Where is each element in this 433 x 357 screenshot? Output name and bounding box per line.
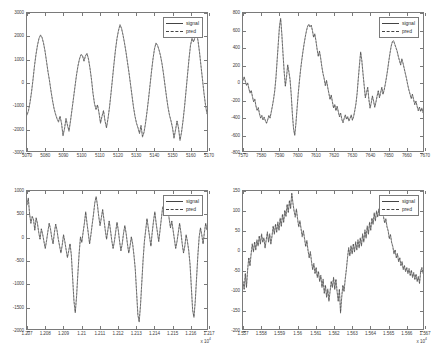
y-tick-label: 600	[233, 28, 240, 33]
y-tick-mark	[27, 106, 30, 107]
y-tick-mark	[420, 231, 423, 232]
legend-line-solid-icon	[382, 23, 399, 25]
x-tick-mark	[370, 326, 371, 329]
legend-top-right: signal pred	[379, 17, 419, 38]
x-tick-mark	[425, 326, 426, 329]
x-tick-label: 5070	[22, 154, 32, 159]
x-tick-label: 7630	[347, 154, 357, 159]
x-tick-mark	[425, 148, 426, 151]
x-tick-label: 5160	[186, 154, 196, 159]
x-tick-label: 1.567	[420, 332, 431, 337]
x-tick-label: 5090	[58, 154, 68, 159]
x-tick-label: 5120	[113, 154, 123, 159]
axes-bottom-left: signal pred 10005000-500-1000-1500-20001…	[26, 190, 208, 330]
x-tick-label: 7620	[329, 154, 339, 159]
y-tick-label: -2000	[13, 127, 24, 132]
x-tick-mark	[100, 13, 101, 16]
x-tick-mark	[191, 13, 192, 16]
y-tick-mark	[204, 284, 207, 285]
x-tick-mark	[334, 148, 335, 151]
legend-line-solid-icon	[166, 23, 183, 25]
y-tick-mark	[420, 101, 423, 102]
x-tick-mark	[173, 148, 174, 151]
x-tick-mark	[27, 148, 28, 151]
x-tick-label: 1.561	[310, 332, 321, 337]
y-tick-label: -600	[231, 133, 240, 138]
y-tick-label: 200	[233, 63, 240, 68]
x-tick-mark	[100, 148, 101, 151]
y-tick-label: -200	[231, 98, 240, 103]
legend-row-pred: pred	[166, 206, 199, 213]
x-tick-mark	[118, 13, 119, 16]
x-tick-mark	[82, 326, 83, 329]
y-tick-mark	[204, 238, 207, 239]
x-tick-mark	[334, 13, 335, 16]
x-axis-exponent-label: x 104	[416, 338, 427, 344]
x-tick-mark	[136, 326, 137, 329]
x-tick-mark	[209, 191, 210, 194]
legend-label-signal: signal	[186, 21, 199, 26]
legend-label-signal: signal	[402, 199, 415, 204]
x-tick-label: 1.214	[149, 332, 160, 337]
legend-row-signal: signal	[166, 20, 199, 27]
y-tick-mark	[204, 13, 207, 14]
y-tick-mark	[243, 211, 246, 212]
x-tick-label: 1.211	[94, 332, 105, 337]
x-tick-mark	[316, 191, 317, 194]
y-tick-mark	[420, 31, 423, 32]
subplot-bottom-right: signal pred 150100500-50-100-150-2001.55…	[216, 178, 432, 356]
y-tick-label: 400	[233, 46, 240, 51]
x-tick-mark	[407, 148, 408, 151]
x-tick-mark	[243, 148, 244, 151]
y-tick-label: 3000	[14, 11, 24, 16]
legend-row-signal: signal	[382, 20, 415, 27]
x-tick-mark	[298, 148, 299, 151]
y-tick-mark	[420, 251, 423, 252]
legend-line-dashed-icon	[166, 209, 183, 211]
y-tick-label: -100	[231, 289, 240, 294]
legend-line-solid-icon	[382, 201, 399, 203]
y-tick-label: 50	[235, 229, 240, 234]
x-tick-mark	[261, 326, 262, 329]
x-tick-mark	[243, 13, 244, 16]
axes-top-right: signal pred 8006004002000-200-400-600-80…	[242, 12, 424, 152]
x-tick-label: 5130	[131, 154, 141, 159]
legend-line-dashed-icon	[382, 31, 399, 33]
legend-label-pred: pred	[402, 29, 412, 34]
y-tick-mark	[243, 66, 246, 67]
x-tick-mark	[136, 191, 137, 194]
x-tick-label: 1.566	[401, 332, 412, 337]
y-tick-label: 800	[233, 11, 240, 16]
x-tick-mark	[425, 13, 426, 16]
legend-row-signal: signal	[166, 198, 199, 205]
x-tick-mark	[352, 326, 353, 329]
y-tick-mark	[204, 36, 207, 37]
y-tick-label: 0	[22, 235, 24, 240]
x-tick-label: 1.216	[185, 332, 196, 337]
x-tick-mark	[279, 148, 280, 151]
legend-row-pred: pred	[166, 28, 199, 35]
x-tick-mark	[279, 13, 280, 16]
legend-label-signal: signal	[186, 199, 199, 204]
x-tick-label: 7640	[365, 154, 375, 159]
axes-top-left: signal pred 3000200010000-1000-2000-3000…	[26, 12, 208, 152]
x-tick-mark	[407, 191, 408, 194]
y-tick-label: 500	[17, 212, 24, 217]
x-tick-mark	[352, 13, 353, 16]
y-tick-mark	[27, 284, 30, 285]
y-tick-mark	[420, 118, 423, 119]
y-tick-mark	[420, 13, 423, 14]
y-tick-label: -400	[231, 116, 240, 121]
x-tick-mark	[27, 13, 28, 16]
x-tick-mark	[261, 148, 262, 151]
legend-line-dashed-icon	[166, 31, 183, 33]
x-tick-mark	[82, 148, 83, 151]
x-tick-mark	[118, 326, 119, 329]
y-tick-mark	[243, 101, 246, 102]
x-tick-mark	[425, 191, 426, 194]
x-tick-mark	[316, 148, 317, 151]
legend-bottom-left: signal pred	[163, 195, 203, 216]
x-tick-label: 1.558	[256, 332, 267, 337]
axes-bottom-right: signal pred 150100500-50-100-150-2001.55…	[242, 190, 424, 330]
x-tick-label: 7670	[420, 154, 430, 159]
